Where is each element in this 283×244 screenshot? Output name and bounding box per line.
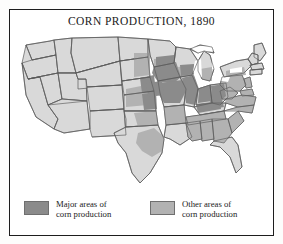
- legend-item-major: Major areas of corn production: [24, 199, 111, 220]
- legend-label-other-line1: Other areas of: [182, 199, 231, 209]
- legend-label-major-line2: corn production: [56, 209, 111, 219]
- legend-label-major: Major areas of corn production: [56, 199, 111, 220]
- legend-label-other: Other areas of corn production: [182, 199, 237, 220]
- page-title: CORN PRODUCTION, 1890: [0, 15, 283, 27]
- map-legend: Major areas of corn production Other are…: [0, 199, 283, 231]
- legend-item-other: Other areas of corn production: [150, 199, 237, 220]
- legend-swatch-major: [24, 201, 49, 215]
- corn-production-map-figure: CORN PRODUCTION, 1890: [0, 0, 283, 244]
- us-map: [14, 33, 269, 193]
- legend-label-major-line1: Major areas of: [56, 199, 107, 209]
- legend-swatch-other: [150, 201, 175, 215]
- legend-label-other-line2: corn production: [182, 209, 237, 219]
